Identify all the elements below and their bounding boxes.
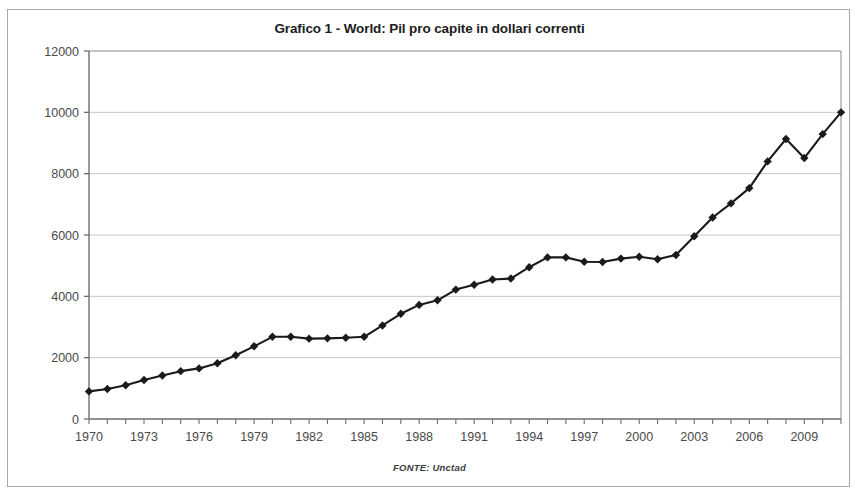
x-tick-label-2000: 2000 bbox=[625, 430, 653, 444]
data-point: 1982: 2620 bbox=[305, 334, 313, 342]
data-point: 2000: 5290 bbox=[635, 253, 643, 261]
data-point: 1998: 5120 bbox=[598, 258, 606, 266]
x-tick-label-1982: 1982 bbox=[295, 430, 323, 444]
data-point: 1980: 2680 bbox=[268, 333, 276, 341]
x-tick-label-2003: 2003 bbox=[680, 430, 708, 444]
data-point: 1971: 980 bbox=[103, 385, 111, 393]
data-point: 1992: 4550 bbox=[488, 275, 496, 283]
data-point: 1977: 1820 bbox=[213, 359, 221, 367]
data-point: 1981: 2680 bbox=[287, 333, 295, 341]
data-point: 1999: 5230 bbox=[617, 254, 625, 262]
y-tick-label-8000: 8000 bbox=[51, 167, 79, 181]
data-point: 1970: 900 bbox=[85, 387, 93, 395]
data-point: 1997: 5130 bbox=[580, 257, 588, 265]
data-point: 1990: 4220 bbox=[452, 285, 460, 293]
x-tick-label-1985: 1985 bbox=[350, 430, 378, 444]
data-point: 1983: 2630 bbox=[323, 334, 331, 342]
y-tick-label-6000: 6000 bbox=[51, 229, 79, 243]
x-tick-label-1979: 1979 bbox=[240, 430, 268, 444]
y-tick-label-4000: 4000 bbox=[51, 290, 79, 304]
source-note: FONTE: Unctad bbox=[8, 462, 851, 473]
x-tick-label-1976: 1976 bbox=[185, 430, 213, 444]
data-point: 1975: 1560 bbox=[177, 367, 185, 375]
data-point: 1972: 1100 bbox=[121, 381, 129, 389]
data-markers: 1970: 9001971: 9801972: 11001973: 127019… bbox=[85, 108, 845, 395]
y-tick-label-2000: 2000 bbox=[51, 351, 79, 365]
x-tick-label-2006: 2006 bbox=[735, 430, 763, 444]
figure-frame: Grafico 1 - World: Pil pro capite in dol… bbox=[7, 9, 850, 487]
data-point: 1989: 3870 bbox=[433, 296, 441, 304]
x-tick-label-1988: 1988 bbox=[405, 430, 433, 444]
data-point: 1996: 5270 bbox=[562, 253, 570, 261]
data-point: 1974: 1420 bbox=[158, 371, 166, 379]
data-point: 2001: 5210 bbox=[653, 255, 661, 263]
x-tick-label-1970: 1970 bbox=[75, 430, 103, 444]
y-tick-label-10000: 10000 bbox=[44, 106, 79, 120]
line-chart-svg: 0200040006000800010000120001970197319761… bbox=[8, 10, 851, 488]
y-tick-label-0: 0 bbox=[72, 413, 79, 427]
x-tick-label-1973: 1973 bbox=[130, 430, 158, 444]
data-line bbox=[89, 112, 841, 391]
x-tick-label-1991: 1991 bbox=[460, 430, 488, 444]
x-tick-label-1994: 1994 bbox=[515, 430, 543, 444]
data-point: 1988: 3720 bbox=[415, 301, 423, 309]
plot-area: 0200040006000800010000120001970197319761… bbox=[8, 10, 851, 488]
data-point: 1979: 2370 bbox=[250, 342, 258, 350]
data-point: 1984: 2650 bbox=[342, 334, 350, 342]
x-tick-label-1997: 1997 bbox=[570, 430, 598, 444]
data-point: 1976: 1650 bbox=[195, 364, 203, 372]
data-point: 1991: 4380 bbox=[470, 280, 478, 288]
data-point: 1995: 5270 bbox=[543, 253, 551, 261]
y-tick-label-12000: 12000 bbox=[44, 45, 79, 59]
data-point: 1973: 1270 bbox=[140, 376, 148, 384]
x-tick-label-2009: 2009 bbox=[790, 430, 818, 444]
